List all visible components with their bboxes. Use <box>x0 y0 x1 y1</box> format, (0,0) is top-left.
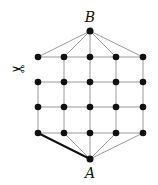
node-a <box>87 156 94 163</box>
label-b: B <box>84 9 95 25</box>
edges-from-b <box>38 31 143 57</box>
node-b <box>87 28 94 35</box>
scissors-icon: ✂ <box>11 59 24 78</box>
graph-diagram: B A ✂ <box>0 0 158 185</box>
vertical-edges <box>38 57 143 133</box>
edges-to-a <box>38 133 143 159</box>
label-a: A <box>83 165 95 181</box>
highlighted-edge <box>38 133 90 159</box>
